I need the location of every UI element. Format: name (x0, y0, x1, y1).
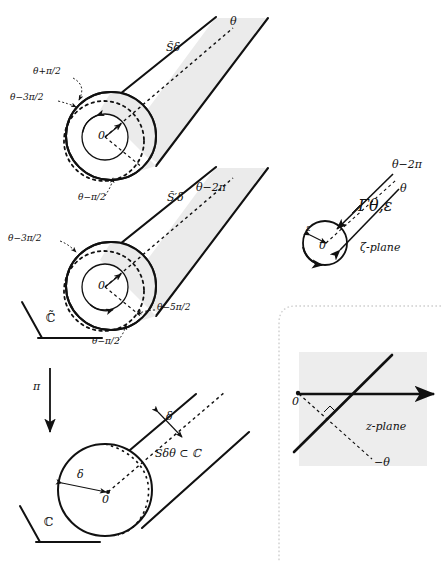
z-plane-label: z-plane (366, 421, 406, 432)
axis-label-theta-upper: θ (230, 16, 237, 27)
callout-theta-minus-pi-2-upper: θ−π/2 (78, 193, 106, 202)
delta-label-side: δ (166, 411, 173, 422)
plane-label-c: ℂ (44, 516, 54, 528)
z-angle-label: −θ (374, 457, 390, 468)
axis-label-theta-minus-2pi: θ−2π (196, 182, 226, 193)
callout-theta-minus-5pi-2: θ−5π/2 (157, 303, 190, 312)
callout-theta-minus-3pi-2-lower: θ−3π/2 (8, 234, 41, 243)
zeta-contour-label: Γθ,ε (358, 198, 392, 214)
plane-label-ctilde: ℂ̃ (46, 312, 56, 324)
origin-label-upper: 0 (98, 130, 105, 141)
sector-label-lower: S̃′δ (167, 192, 184, 203)
z-panel-shade (299, 352, 427, 466)
delta-label-base: δ (77, 469, 84, 480)
callout-theta-plus-pi-2: θ+π/2 (33, 67, 61, 76)
callout-theta-minus-pi-2-lower: θ−π/2 (92, 337, 120, 346)
figure-canvas (0, 0, 443, 562)
callout-theta-minus-3pi-2-upper: θ−3π/2 (10, 93, 43, 102)
zeta-ray-label-upper: θ−2π (392, 159, 422, 170)
sector-label-upper: S̃δ (166, 42, 180, 53)
zeta-origin-label: 0 (319, 240, 326, 251)
z-origin-label: 0 (292, 396, 299, 407)
map-arrow-label: π (33, 381, 40, 392)
figure-root: θ S̃δ θ+π/2 θ−3π/2 θ−π/2 0 θ−2π S̃′δ θ−3… (0, 0, 443, 562)
origin-label-lower: 0 (98, 280, 105, 291)
zeta-plane-label: ζ-plane (360, 242, 400, 253)
origin-label-bottom: 0 (102, 494, 109, 505)
zeta-epsilon-label: ε (306, 224, 311, 233)
axis-ray-bottom (108, 392, 225, 492)
zeta-ray-label-lower: θ (400, 183, 407, 194)
sector-label-bottom: Sδθ ⊂ ℂ (155, 448, 201, 459)
